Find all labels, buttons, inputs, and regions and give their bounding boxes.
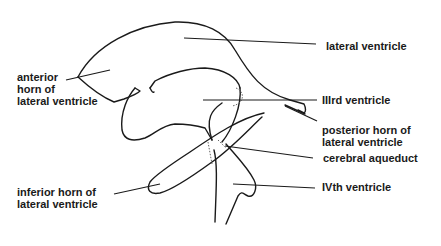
label-cerebral-aqueduct-text: cerebral aqueduct <box>323 152 418 164</box>
label-lateral-ventricle: lateral ventricle <box>326 40 407 52</box>
posterior-horn-line <box>285 105 305 114</box>
inner-arch <box>150 68 240 88</box>
label-anterior-horn-line1: anterior <box>17 71 98 83</box>
leader-fourth-ventricle <box>233 184 315 188</box>
label-third-ventricle: IIIrd ventricle <box>322 94 390 106</box>
inferior-horn-outline <box>148 113 264 193</box>
label-anterior-horn-line3: lateral ventricle <box>17 95 98 107</box>
label-posterior-horn: posterior horn of lateral ventricle <box>322 124 411 148</box>
label-fourth-ventricle: IVth ventricle <box>322 181 391 193</box>
label-fourth-ventricle-text: IVth ventricle <box>322 181 391 193</box>
aqueduct-dotted-left <box>208 142 212 164</box>
lateral-ventricle-outline <box>78 22 306 113</box>
label-anterior-horn-line2: horn of <box>17 83 98 95</box>
label-cerebral-aqueduct: cerebral aqueduct <box>323 152 418 164</box>
label-third-ventricle-text: IIIrd ventricle <box>322 94 390 106</box>
inner-arch-end <box>150 88 154 92</box>
label-posterior-horn-line2: lateral ventricle <box>322 136 411 148</box>
third-ventricle-curve <box>222 88 240 142</box>
label-lateral-ventricle-text: lateral ventricle <box>326 40 407 52</box>
label-inferior-horn-line2: lateral ventricle <box>17 198 98 210</box>
leader-cerebral-aqueduct <box>225 146 313 158</box>
thalamus-loop <box>122 88 212 140</box>
leader-posterior-horn <box>285 106 317 121</box>
label-anterior-horn: anterior horn of lateral ventricle <box>17 71 98 107</box>
label-posterior-horn-line1: posterior horn of <box>322 124 411 136</box>
ventricle-diagram: lateral ventricle anterior horn of later… <box>0 0 441 246</box>
label-inferior-horn-line1: inferior horn of <box>17 186 98 198</box>
label-inferior-horn: inferior horn of lateral ventricle <box>17 186 98 210</box>
leader-lateral-ventricle <box>184 38 316 44</box>
